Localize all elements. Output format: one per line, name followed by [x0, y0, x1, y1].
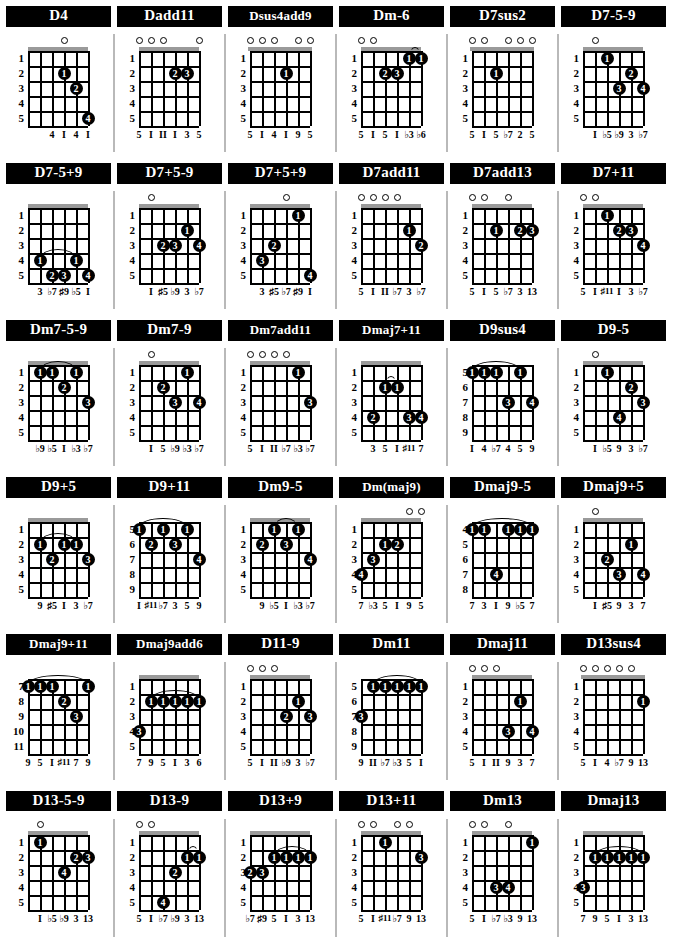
fret-number: 3	[241, 238, 247, 253]
chord-card-d13-11[interactable]: D13+1112345135I♯11♭7913	[336, 789, 447, 939]
fret-number: 2	[574, 223, 580, 238]
chord-card-dmaj9-5[interactable]: Dmaj9-54567811111473I9♭57	[447, 475, 558, 632]
chord-card-d7-5-9[interactable]: D7+5-9123451234I♯5♭93♭7	[114, 161, 225, 318]
string-line	[643, 835, 645, 910]
fret-number: 1	[130, 365, 136, 380]
open-strings-row	[361, 821, 421, 831]
chord-card-dm11[interactable]: Dm11567891111139II♭7♭35I	[336, 632, 447, 789]
finger-dot: 3	[169, 239, 182, 252]
chord-card-dmaj13[interactable]: Dmaj1312345111113795I313	[558, 789, 669, 939]
finger-dots-layer: 1234	[583, 208, 643, 283]
chord-card-d9-11[interactable]: D9+1156789111234I♯11♭7359	[114, 475, 225, 632]
interval-labels-row: ♭9♭5I♭3♭7	[28, 442, 88, 456]
chord-card-d9sus4[interactable]: D9sus456789111134I4♭7459	[447, 318, 558, 475]
chord-name-label: D13+11	[339, 791, 444, 811]
chord-card-dmaj7-11[interactable]: Dmaj7+11123451123435I♯117	[336, 318, 447, 475]
finger-dot: 1	[292, 523, 305, 536]
finger-dot: 1	[292, 366, 305, 379]
chord-card-dmaj9-11[interactable]: Dmaj9+11789101111112395I♯1179	[3, 632, 114, 789]
finger-dots-layer: 23	[139, 51, 199, 126]
finger-dot: 1	[193, 851, 206, 864]
fret-number: 4	[130, 880, 136, 895]
chord-card-d13-9[interactable]: D13-91234511245I♭7♭9313	[114, 789, 225, 939]
interval-label: 6	[192, 756, 206, 769]
fret-number-column: 12345	[119, 679, 136, 754]
chord-name-label: D13sus4	[561, 634, 666, 655]
fret-number: 1	[241, 679, 247, 694]
fret-number: 1	[352, 51, 358, 66]
fret-number: 2	[574, 380, 580, 395]
fret-number-column: 12345	[119, 51, 136, 126]
chord-card-dsus4add9[interactable]: Dsus4add91234515I4I95	[225, 4, 336, 161]
fretboard-diagram: 123451234I5♭9♭3♭7	[117, 347, 222, 475]
fret-number: 2	[463, 223, 469, 238]
chord-card-d4[interactable]: D4123451244I4I	[3, 4, 114, 161]
chord-card-d13-9[interactable]: D13+912345111123♭7♯95I313	[225, 789, 336, 939]
fret-number-column: 12345	[563, 208, 580, 283]
chord-card-d7add11[interactable]: D7add1112345125III♭73♭7	[336, 161, 447, 318]
fretboard-diagram: 123451234I♭593♭7	[561, 347, 666, 475]
interval-label: 13	[636, 912, 650, 925]
string-line	[643, 679, 645, 754]
fret-number: 4	[130, 253, 136, 268]
fretboard-diagram: 123451345I♭7♭3913	[450, 817, 555, 939]
finger-dot: 1	[280, 67, 293, 80]
chord-card-dm13[interactable]: Dm13123451345I♭7♭3913	[447, 789, 558, 939]
chord-card-d7-5-9[interactable]: D7-5+912345112343♭7♯9♭5I	[3, 161, 114, 318]
interval-label: 13	[525, 912, 539, 925]
open-strings-row	[472, 194, 532, 204]
chord-card-dmaj11[interactable]: Dmaj11123451345III937	[447, 632, 558, 789]
fret-number: 4	[352, 410, 358, 425]
interval-label: 7	[414, 442, 428, 455]
chord-card-dm7-9[interactable]: Dm7-9123451234I5♭9♭3♭7	[114, 318, 225, 475]
interval-labels-row: I♭593♭7	[583, 442, 643, 456]
fret-number: 8	[130, 567, 136, 582]
fret-number: 1	[352, 522, 358, 537]
chord-card-d7sus2[interactable]: D7sus21234515I5♭725	[447, 4, 558, 161]
chord-card-d13sus4[interactable]: D13sus41234515I4♭7913	[558, 632, 669, 789]
interval-labels-row: 795I36	[139, 756, 199, 770]
chord-card-dmaj9add6[interactable]: Dmaj9add612345111113795I36	[114, 632, 225, 789]
open-strings-row	[472, 665, 532, 675]
open-strings-row	[583, 37, 643, 47]
fret-number-column: 12345	[8, 51, 25, 126]
open-string-circle-icon	[271, 351, 278, 358]
interval-labels-row: 9♭5I♭3♭7	[250, 599, 310, 613]
chord-card-dm7-5-9[interactable]: Dm7-5-91234511123♭9♭5I♭3♭7	[3, 318, 114, 475]
chord-card-dmaj9-5[interactable]: Dmaj9+5123451234I♯5937	[558, 475, 669, 632]
chord-card-d11-9[interactable]: D11-9123451235III♭93♭7	[225, 632, 336, 789]
chord-card-dadd11[interactable]: Dadd1112345235IIII35	[114, 4, 225, 161]
interval-label: 9	[192, 599, 206, 612]
chord-card-dm9-5[interactable]: Dm9-512345112349♭5I♭3♭7	[225, 475, 336, 632]
string-line	[532, 51, 534, 126]
fret-number: 4	[19, 567, 25, 582]
finger-dot: 3	[415, 851, 428, 864]
chord-card-dm-maj9[interactable]: Dm(maj9)1234512347♭35I95	[336, 475, 447, 632]
string-line	[88, 835, 90, 910]
chord-card-d7add13[interactable]: D7add13123451235I5♭7313	[447, 161, 558, 318]
chord-card-d13-5-9[interactable]: D13-5-9123451234I♭5♭9313	[3, 789, 114, 939]
chord-card-d9-5[interactable]: D9+512345111239♯5I3♭7	[3, 475, 114, 632]
finger-dot: 3	[256, 866, 269, 879]
chord-card-dm7add11[interactable]: Dm7add1112345135III♭7♭3♭7	[225, 318, 336, 475]
chord-card-dm-6[interactable]: Dm-61234511235I5I♭3♭6	[336, 4, 447, 161]
chord-row: D9+512345111239♯5I3♭7D9+1156789111234I♯1…	[3, 475, 674, 632]
string-line	[643, 522, 645, 597]
finger-dot: 3	[70, 710, 83, 723]
open-string-circle-icon	[406, 508, 413, 515]
fret-number: 4	[463, 96, 469, 111]
chord-card-d7-5-9[interactable]: D7-5-9123451234I♭5♭93♭7	[558, 4, 669, 161]
finger-dot: 3	[82, 851, 95, 864]
finger-dot: 4	[415, 411, 428, 424]
chord-card-d9-5[interactable]: D9-5123451234I♭593♭7	[558, 318, 669, 475]
chord-card-d7-5-9[interactable]: D7+5+91234512343♯5♭7♯9I	[225, 161, 336, 318]
fret-number: 1	[463, 51, 469, 66]
finger-dot: 3	[490, 881, 503, 894]
chord-row: D4123451244I4IDadd1112345235IIII35Dsus4a…	[3, 4, 674, 161]
chord-card-d7-11[interactable]: D7+111234512345I♯11I3♭7	[558, 161, 669, 318]
finger-dot: 3	[355, 710, 368, 723]
finger-dot: 2	[157, 239, 170, 252]
fret-number: 5	[241, 739, 247, 754]
fret-number: 2	[19, 850, 25, 865]
fretboard-diagram: 56789111134I4♭7459	[450, 347, 555, 475]
